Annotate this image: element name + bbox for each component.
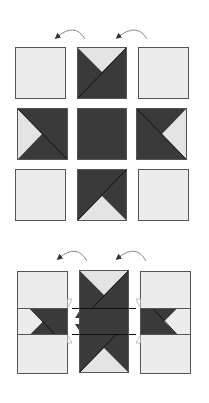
flying-geese-bottom-square bbox=[78, 170, 127, 221]
right-column bbox=[136, 272, 191, 374]
center-column bbox=[72, 271, 136, 373]
plain-square bbox=[16, 48, 66, 99]
seam-allowance-tab bbox=[136, 335, 141, 343]
curved-arrow-icon bbox=[118, 30, 147, 39]
curved-arrow-icon bbox=[118, 251, 146, 261]
seam-allowance-tab bbox=[75, 324, 80, 331]
curved-arrow-icon bbox=[57, 30, 85, 39]
step1-nine-patch bbox=[16, 48, 189, 221]
plain-square bbox=[139, 170, 189, 221]
flying-geese-left-square bbox=[18, 109, 68, 160]
seam-allowance-tab bbox=[136, 299, 141, 308]
seam-allowance-tab bbox=[68, 299, 73, 308]
seam-allowance-tab bbox=[68, 335, 73, 343]
flying-geese-top-square bbox=[78, 48, 127, 99]
plain-square bbox=[16, 170, 66, 221]
step1-arrows bbox=[57, 30, 147, 39]
step2-joined-columns bbox=[18, 271, 191, 374]
step2-arrows bbox=[59, 251, 146, 261]
seam-allowance-tab bbox=[75, 311, 80, 318]
curved-arrow-icon bbox=[59, 251, 87, 261]
solid-dark-square bbox=[78, 109, 127, 160]
quilt-diagram bbox=[0, 0, 209, 403]
flying-geese-right-square bbox=[137, 109, 187, 160]
left-column bbox=[18, 272, 73, 374]
plain-square bbox=[139, 48, 189, 99]
